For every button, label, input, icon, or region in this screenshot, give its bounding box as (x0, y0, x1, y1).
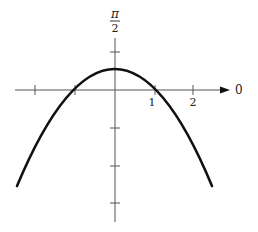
polar-axis-label: 0 (235, 83, 243, 97)
polar-graph: π 2 1 2 0 (0, 0, 258, 232)
arrow-right-icon (220, 87, 230, 94)
tick-label-2: 2 (190, 96, 197, 109)
two-label: 2 (112, 22, 119, 35)
tick-label-1: 1 (149, 96, 156, 109)
pi-label: π (110, 7, 120, 21)
